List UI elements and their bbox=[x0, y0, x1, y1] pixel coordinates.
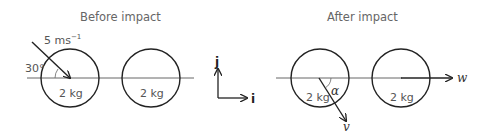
i-label: i bbox=[251, 92, 255, 106]
after-title: After impact bbox=[327, 10, 398, 24]
angle-arc bbox=[55, 69, 58, 78]
alpha-label: α bbox=[331, 84, 339, 98]
ball-2-mass: 2 kg bbox=[140, 87, 164, 100]
before-title: Before impact bbox=[80, 10, 161, 24]
ball-2-after-mass: 2 kg bbox=[390, 91, 414, 104]
before-impact-panel: Before impact 5 ms−1 30° 2 kg 2 kg bbox=[25, 10, 194, 107]
speed-label: 5 ms−1 bbox=[44, 33, 81, 47]
ball-1-mass: 2 kg bbox=[59, 87, 83, 100]
unit-vector-axes: j i bbox=[214, 55, 255, 106]
collision-diagram: Before impact 5 ms−1 30° 2 kg 2 kg j i A… bbox=[0, 0, 492, 137]
angle-30-label: 30° bbox=[25, 62, 45, 75]
v-label: v bbox=[343, 120, 350, 134]
ball-1-after-mass: 2 kg bbox=[306, 91, 330, 104]
w-label: w bbox=[457, 71, 468, 85]
j-label: j bbox=[214, 55, 219, 69]
after-impact-panel: After impact α 2 kg 2 kg v w bbox=[276, 10, 468, 134]
